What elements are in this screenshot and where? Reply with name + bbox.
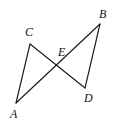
vertex-label-a: A xyxy=(10,108,17,120)
segment-ac xyxy=(16,44,30,103)
vertex-label-d: D xyxy=(84,92,93,104)
geometry-figure: A B C D E xyxy=(0,0,114,127)
segment-bd xyxy=(85,24,100,88)
vertex-label-e: E xyxy=(58,46,65,58)
vertex-label-c: C xyxy=(25,26,33,38)
vertex-label-b: B xyxy=(99,8,106,20)
